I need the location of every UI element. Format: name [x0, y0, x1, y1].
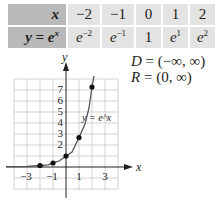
x-tick-labels: −3 −1 1 3 [20, 170, 108, 182]
exp-graph: x y −3 −1 1 3 2 3 4 5 6 7 y = e^x [0, 0, 220, 203]
y-tick-labels: 2 3 4 5 6 7 [58, 83, 64, 150]
svg-text:1: 1 [76, 170, 82, 182]
svg-text:6: 6 [58, 94, 64, 106]
svg-text:5: 5 [58, 105, 64, 117]
curve-label: y = e^x [81, 112, 112, 123]
svg-text:−3: −3 [20, 170, 32, 182]
svg-text:7: 7 [58, 83, 64, 95]
x-axis-label: x [135, 160, 142, 174]
svg-text:2: 2 [58, 138, 64, 150]
y-axis-label: y [61, 50, 68, 64]
x-axis-arrow-icon [124, 164, 133, 170]
svg-text:4: 4 [58, 116, 64, 128]
svg-text:3: 3 [102, 170, 108, 182]
svg-text:3: 3 [58, 127, 64, 139]
svg-text:−1: −1 [46, 170, 58, 182]
